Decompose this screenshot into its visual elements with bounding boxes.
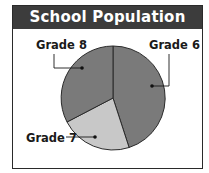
dot-grade-7 — [93, 135, 97, 139]
label-grade-7: Grade 7 — [26, 131, 77, 145]
pie-chart: Grade 8 Grade 6 Grade 7 — [0, 0, 209, 173]
label-grade-6: Grade 6 — [149, 38, 200, 52]
label-grade-8: Grade 8 — [36, 38, 87, 52]
dot-grade-6 — [150, 84, 154, 88]
dot-grade-8 — [80, 66, 84, 70]
